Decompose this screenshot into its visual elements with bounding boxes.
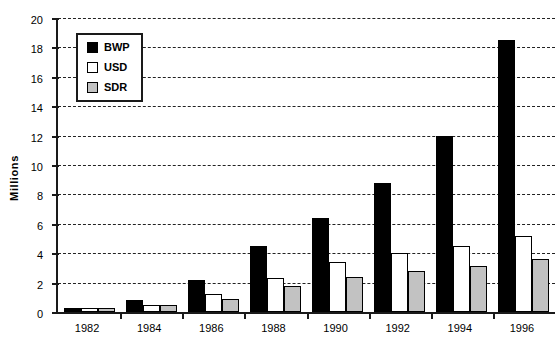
bar-usd-1992 — [391, 253, 408, 312]
y-axis-tick-label: 12 — [31, 132, 43, 144]
bar-chart: Millions 02468101214161820 1982198419861… — [0, 0, 559, 355]
legend-swatch-sdr — [87, 82, 98, 93]
x-axis-tick — [431, 312, 433, 319]
x-axis-label-1984: 1984 — [118, 322, 180, 334]
y-axis-tick-label: 4 — [37, 249, 43, 261]
x-axis-tick — [120, 312, 122, 319]
x-axis-tick — [244, 312, 246, 319]
bar-sdr-1984 — [160, 305, 177, 312]
x-axis-label-1986: 1986 — [180, 322, 242, 334]
legend-swatch-bwp — [87, 42, 98, 53]
bar-group — [493, 18, 555, 312]
bar-usd-1982 — [81, 308, 98, 312]
legend-swatch-usd — [87, 62, 98, 73]
legend-label-usd: USD — [104, 62, 127, 73]
bar-bwp-1986 — [188, 280, 205, 312]
y-axis-tick-label: 6 — [37, 220, 43, 232]
bar-usd-1988 — [267, 278, 284, 312]
x-axis-label-1982: 1982 — [56, 322, 118, 334]
y-axis-tick-label: 8 — [37, 190, 43, 202]
bar-bwp-1982 — [64, 308, 81, 312]
bar-sdr-1986 — [222, 299, 239, 312]
y-axis-tick-label: 14 — [31, 102, 43, 114]
y-axis-tick: 0 — [52, 312, 59, 314]
x-axis-tick — [182, 312, 184, 319]
bar-sdr-1982 — [98, 308, 115, 312]
bar-group — [431, 18, 493, 312]
bar-group — [307, 18, 369, 312]
bar-bwp-1988 — [250, 246, 267, 312]
y-axis-tick-label: 2 — [37, 279, 43, 291]
bar-sdr-1996 — [532, 259, 549, 312]
bar-usd-1984 — [143, 305, 160, 312]
y-axis-tick-label: 10 — [31, 161, 43, 173]
bar-group — [369, 18, 431, 312]
x-axis-label-1996: 1996 — [491, 322, 553, 334]
x-axis-label-1988: 1988 — [242, 322, 304, 334]
legend-item-usd[interactable]: USD — [87, 62, 130, 73]
x-axis-tick — [493, 312, 495, 319]
x-axis-labels: 19821984198619881990199219941996 — [56, 322, 553, 334]
x-axis-label-1994: 1994 — [429, 322, 491, 334]
bar-group — [182, 18, 244, 312]
y-axis-tick-label: 16 — [31, 73, 43, 85]
bar-usd-1996 — [515, 236, 532, 312]
x-axis-tick — [307, 312, 309, 319]
bar-usd-1986 — [205, 294, 222, 312]
bar-sdr-1992 — [408, 271, 425, 312]
bar-bwp-1992 — [374, 183, 391, 312]
bar-bwp-1990 — [312, 218, 329, 312]
legend-item-sdr[interactable]: SDR — [87, 82, 130, 93]
chart-legend: BWPUSDSDR — [76, 33, 143, 102]
x-axis-label-1990: 1990 — [305, 322, 367, 334]
x-axis-tick — [369, 312, 371, 319]
legend-item-bwp[interactable]: BWP — [87, 42, 130, 53]
y-axis-title: Millions — [2, 0, 26, 355]
bar-usd-1990 — [329, 262, 346, 312]
y-axis-tick-label: 0 — [37, 308, 43, 320]
bar-group — [244, 18, 306, 312]
bar-usd-1994 — [453, 246, 470, 312]
legend-label-bwp: BWP — [104, 42, 130, 53]
bar-sdr-1990 — [346, 277, 363, 312]
bar-bwp-1994 — [436, 136, 453, 312]
y-axis-tick-label: 20 — [31, 14, 43, 26]
bar-sdr-1994 — [470, 266, 487, 312]
y-axis-title-text: Millions — [8, 155, 20, 201]
legend-label-sdr: SDR — [104, 82, 127, 93]
y-axis-tick-label: 18 — [31, 43, 43, 55]
bar-bwp-1984 — [126, 300, 143, 312]
bar-bwp-1996 — [498, 40, 515, 312]
x-axis-label-1992: 1992 — [367, 322, 429, 334]
bar-sdr-1988 — [284, 286, 301, 312]
